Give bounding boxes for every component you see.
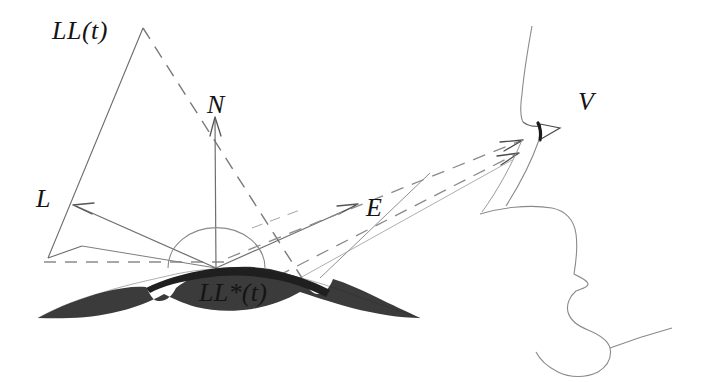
- temple-line: [482, 140, 522, 212]
- reflected-cone-crosstick: [252, 210, 300, 228]
- diagram-canvas: [0, 0, 716, 382]
- label-normal: N: [207, 92, 224, 118]
- label-light-direction: L: [36, 186, 50, 212]
- reflected-ray-lower-dashed: [258, 154, 516, 286]
- eye-shape: [540, 124, 560, 139]
- incident-beam-group: [44, 28, 302, 278]
- reflected-ray-thin-solid: [300, 160, 512, 278]
- neck-line: [610, 328, 672, 348]
- normal-vector-group: [210, 117, 221, 272]
- beam-left-edge-solid: [48, 28, 143, 258]
- cheek-line: [506, 140, 539, 206]
- light-vector-group: [73, 203, 216, 268]
- label-reflected-light: LL*(t): [199, 280, 267, 306]
- beam-left-vertex-stub: [48, 246, 82, 258]
- reflected-cone-edge-solid: [320, 173, 430, 278]
- exit-vector-group: [216, 204, 358, 268]
- light-vector-shaft: [76, 206, 216, 268]
- figure-root: LL(t) N L E V LL*(t): [0, 0, 716, 382]
- label-incident-light: LL(t): [52, 18, 108, 44]
- eye-upper-lid: [538, 123, 541, 140]
- label-viewer: V: [578, 89, 594, 115]
- head-profile-group: [480, 26, 672, 377]
- label-exit-direction: E: [366, 195, 382, 221]
- beam-inner-edge-solid: [82, 246, 216, 268]
- forehead-line: [521, 26, 532, 122]
- face-profile-line: [480, 206, 611, 376]
